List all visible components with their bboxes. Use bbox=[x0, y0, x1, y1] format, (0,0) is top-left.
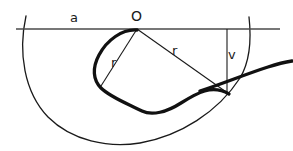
figure-canvas bbox=[0, 0, 293, 151]
label-velocity: v bbox=[228, 48, 236, 61]
geometry-figure: a O r r v bbox=[0, 0, 293, 151]
radius-line-left bbox=[101, 29, 137, 86]
label-point-o: O bbox=[131, 9, 142, 23]
label-radius-left: r bbox=[111, 56, 116, 69]
label-radius-right: r bbox=[172, 44, 177, 57]
label-a: a bbox=[70, 11, 78, 24]
outer-arc-curve bbox=[23, 16, 250, 145]
cycloid-loop-curve bbox=[94, 30, 229, 113]
